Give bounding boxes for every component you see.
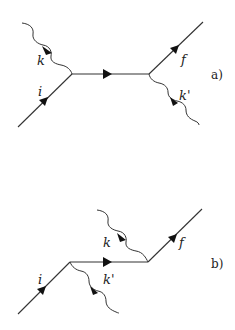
photon-out-arrow-icon (170, 97, 178, 106)
photon-out-wave (70, 262, 119, 313)
label-i: i (38, 272, 42, 287)
diagram-a: k i f k' a) (18, 22, 223, 127)
propagator-arrow-icon (103, 69, 112, 79)
photon-in-wave (22, 23, 72, 74)
photon-out-wave (149, 74, 199, 125)
label-k-prime: k' (103, 272, 114, 287)
label-i: i (38, 84, 42, 99)
diagram-b: k i f k' b) (18, 209, 223, 314)
diagram-tag-b: b) (211, 257, 223, 271)
label-f: f (178, 235, 186, 250)
label-k: k (37, 53, 45, 68)
feynman-diagrams: k i f k' a) k i f k' b) (0, 0, 235, 330)
propagator-arrow-icon (103, 257, 112, 267)
label-f: f (180, 52, 188, 67)
label-k: k (103, 235, 111, 250)
label-k-prime: k' (179, 88, 190, 103)
diagram-tag-a: a) (211, 68, 223, 82)
